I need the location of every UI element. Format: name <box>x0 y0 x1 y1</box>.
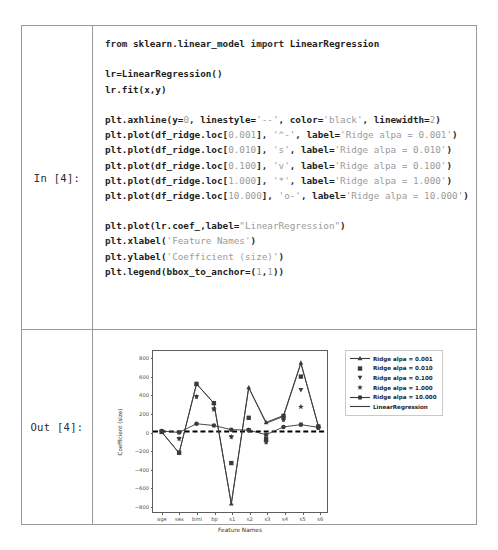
legend-label: Ridge alpa = 0.010 <box>373 365 433 371</box>
code-token: 'Feature Names' <box>167 235 251 246</box>
x-tick-mark <box>250 512 251 515</box>
legend-glyph <box>349 364 371 373</box>
legend-sample <box>349 354 371 363</box>
code-line <box>105 203 469 218</box>
y-tick-mark <box>151 395 154 396</box>
code-token: from <box>105 38 133 49</box>
output-prompt: Out [4]: <box>22 330 93 524</box>
triangle-down-marker <box>358 376 363 380</box>
y-tick-label: 400 <box>139 392 149 398</box>
notebook-cell-table: In [4]: from sklearn.linear_model import… <box>21 25 477 525</box>
y-tick-mark <box>151 358 154 359</box>
y-axis-label: Coefficient (size) <box>117 409 123 456</box>
code-token: lr.fit(x,y) <box>105 84 167 95</box>
legend-sample <box>349 393 371 402</box>
code-line: plt.ylabel('Coefficient (size)') <box>105 249 469 264</box>
x-tick-mark <box>267 512 268 515</box>
data-marker <box>358 366 362 370</box>
code-token: , linestyle= <box>189 114 256 125</box>
x-tick-label: s4 <box>282 516 288 522</box>
legend-glyph <box>349 354 371 363</box>
code-token: 'Ridge alpa = 10.000' <box>346 190 464 201</box>
output-figure-area: Coefficient (size) Feature Names 8006004… <box>93 330 476 524</box>
x-tick-mark <box>162 512 163 515</box>
data-marker <box>229 461 233 465</box>
series-0 <box>159 360 320 505</box>
code-token: plt.plot(lr.coef_,label= <box>105 220 239 231</box>
y-tick-mark <box>151 414 154 415</box>
legend-item: Ridge alpa = 10.000 <box>349 392 437 402</box>
x-tick-label: s2 <box>247 516 253 522</box>
code-token: 'black' <box>323 114 362 125</box>
code-token: LinearRegression <box>290 38 380 49</box>
x-tick-mark <box>285 512 286 515</box>
star-marker <box>298 404 304 409</box>
code-line: plt.plot(df_ridge.loc[0.010], 's', label… <box>105 142 469 157</box>
x-tick-mark <box>197 512 198 515</box>
x-tick-mark <box>232 512 233 515</box>
input-code-area[interactable]: from sklearn.linear_model import LinearR… <box>93 26 477 329</box>
code-token: 'Ridge alpa = 0.010' <box>335 144 447 155</box>
circle-marker <box>212 423 217 428</box>
x-tick-mark <box>179 512 180 515</box>
y-tick-label: −400 <box>135 467 149 473</box>
legend-item: Ridge alpa = 0.100 <box>349 373 437 383</box>
source-code[interactable]: from sklearn.linear_model import LinearR… <box>105 36 469 279</box>
code-token: ], <box>256 129 273 140</box>
code-token: , label= <box>290 175 335 186</box>
circle-marker <box>229 427 234 432</box>
code-token: , color= <box>279 114 324 125</box>
code-token: 0.100 <box>228 160 256 171</box>
code-token: ) <box>446 160 452 171</box>
data-marker <box>212 423 217 428</box>
legend-label: LinearRegression <box>373 404 428 410</box>
code-token: , label= <box>301 190 346 201</box>
code-line <box>105 97 469 112</box>
triangle-down-marker <box>299 388 304 392</box>
series-5 <box>162 363 319 503</box>
x-tick-mark <box>303 512 304 515</box>
code-line: plt.legend(bbox_to_anchor=(1,1)) <box>105 264 469 279</box>
x-tick-label: bp <box>211 516 218 522</box>
code-line: from sklearn.linear_model import LinearR… <box>105 36 469 51</box>
legend-glyph <box>349 393 371 402</box>
code-token: 'Ridge alpa = 1.000' <box>335 175 447 186</box>
legend-item: Ridge alpa = 0.010 <box>349 364 437 374</box>
legend-sample <box>349 364 371 373</box>
y-tick-mark <box>151 377 154 378</box>
legend-item: Ridge alpa = 1.000 <box>349 383 437 393</box>
y-tick-mark <box>151 451 154 452</box>
code-token: ) <box>452 129 458 140</box>
legend-item: LinearRegression <box>349 402 437 412</box>
x-tick-mark <box>320 512 321 515</box>
code-token: ) <box>435 114 441 125</box>
data-marker <box>246 428 251 433</box>
code-token: plt.plot(df_ridge.loc[ <box>105 129 228 140</box>
y-tick-label: −600 <box>135 485 149 491</box>
input-prompt: In [4]: <box>22 26 93 329</box>
y-tick-label: 800 <box>139 355 149 361</box>
code-token: 0.001 <box>228 129 256 140</box>
x-tick-label: s5 <box>300 516 306 522</box>
code-line: plt.plot(df_ridge.loc[10.000], 'o-', lab… <box>105 188 469 203</box>
data-marker <box>299 388 304 392</box>
code-token: plt.xlabel( <box>105 235 167 246</box>
code-line: plt.plot(df_ridge.loc[0.100], 'v', label… <box>105 158 469 173</box>
y-tick-label: 0 <box>146 430 149 436</box>
code-token: ], <box>256 160 273 171</box>
chart-legend: Ridge alpa = 0.001Ridge alpa = 0.010Ridg… <box>345 350 443 416</box>
x-tick-mark <box>215 512 216 515</box>
star-marker <box>357 385 363 390</box>
code-line <box>105 51 469 66</box>
data-marker <box>299 374 303 378</box>
square-marker <box>229 461 233 465</box>
circle-marker <box>299 422 304 427</box>
x-tick-label: bmi <box>192 516 202 522</box>
code-token: ) <box>251 235 257 246</box>
code-token: ], <box>262 190 279 201</box>
data-marker <box>194 421 199 426</box>
code-token: lr=LinearRegression() <box>105 68 223 79</box>
code-token: ], <box>256 175 273 186</box>
circle-marker <box>177 430 182 435</box>
code-token: sklearn.linear_model <box>133 38 251 49</box>
